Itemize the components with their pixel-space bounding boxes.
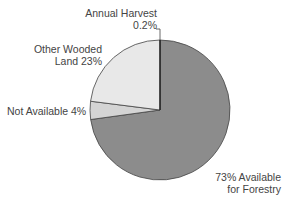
label-other-wooded-line1: Other Wooded bbox=[20, 43, 102, 55]
label-other-wooded-land: Other Wooded Land 23% bbox=[20, 43, 102, 67]
label-not-available: Not Available 4% bbox=[7, 105, 86, 117]
label-available-for-forestry: 73% Available for Forestry bbox=[200, 171, 281, 195]
label-forestry-line2: for Forestry bbox=[200, 183, 281, 195]
label-annual-harvest-line1: Annual Harvest bbox=[82, 7, 157, 19]
label-annual-harvest: Annual Harvest 0.2% bbox=[82, 7, 157, 31]
label-annual-harvest-line2: 0.2% bbox=[82, 19, 157, 31]
label-other-wooded-line2: Land 23% bbox=[20, 55, 102, 67]
label-forestry-line1: 73% Available bbox=[200, 171, 281, 183]
